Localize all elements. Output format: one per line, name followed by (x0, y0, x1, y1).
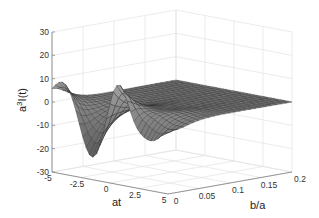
y-tick-label: 0 (174, 196, 179, 206)
z-tick-label: -20 (37, 144, 50, 154)
z-tick-label: -10 (37, 120, 50, 130)
grid-line (110, 161, 234, 183)
x-tick-label: -5 (44, 173, 52, 183)
y-tick-label: 0.15 (261, 180, 278, 190)
surface-plot: -30-20-100102030-5-2.502.5500.050.10.150… (0, 0, 319, 218)
y-tick-label: 0.05 (199, 191, 216, 201)
x-tick-label: 0 (104, 184, 109, 194)
z-tick-label: 20 (40, 50, 50, 60)
z-axis-label: a3I(t) (15, 88, 28, 112)
z-tick-label: 0 (44, 97, 49, 107)
x-tick-label: 2.5 (129, 190, 141, 200)
x-axis-label: at (112, 196, 121, 208)
x-tick-label: 5 (162, 195, 167, 205)
y-axis-label: b/a (250, 199, 266, 211)
z-tick-label: 10 (40, 74, 50, 84)
z-axis-label-rest: I(t) (16, 88, 28, 101)
z-tick-label: 30 (40, 27, 50, 37)
y-tick-label: 0.1 (232, 185, 244, 195)
grid-line (139, 167, 263, 189)
grid-line (81, 156, 205, 178)
x-tick-label: -2.5 (70, 179, 85, 189)
y-tick-label: 0.2 (294, 174, 306, 184)
